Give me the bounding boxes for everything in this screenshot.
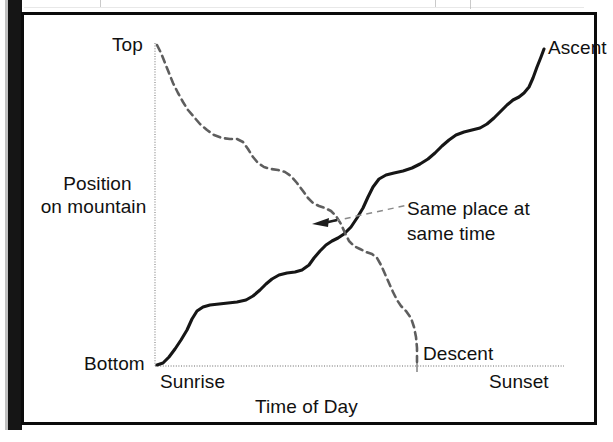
page-artifact-rule — [24, 7, 584, 8]
series-label-ascent: Ascent — [548, 37, 607, 59]
figure-root: Top Bottom Position on mountain Sunrise … — [0, 0, 613, 442]
scan-spine-artifact — [8, 0, 22, 430]
annotation-text-line2: same time — [407, 223, 496, 245]
x-tick-label-sunset: Sunset — [489, 371, 549, 393]
x-tick-label-sunrise: Sunrise — [160, 371, 225, 393]
y-axis-title-line1: Position — [45, 172, 150, 195]
annotation-text-line1: Same place at — [407, 198, 530, 220]
page-artifact-mark-2 — [435, 0, 436, 7]
x-axis-title: Time of Day — [255, 396, 358, 418]
y-axis-title-line2: on mountain — [31, 195, 156, 218]
series-label-descent: Descent — [423, 343, 493, 365]
y-tick-label-top: Top — [112, 34, 143, 56]
figure-frame: Top Bottom Position on mountain Sunrise … — [21, 12, 597, 425]
annotation-leader-line — [334, 205, 408, 221]
page-artifact-mark-1 — [100, 0, 101, 7]
y-tick-label-bottom: Bottom — [84, 353, 145, 375]
